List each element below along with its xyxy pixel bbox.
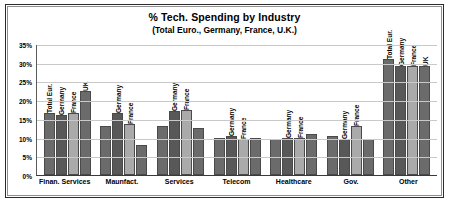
bar: Total Eur. <box>44 113 55 175</box>
bar-series-label: France <box>182 70 190 110</box>
y-axis-tick: 15% <box>19 116 32 123</box>
y-axis-tick: 0% <box>23 173 32 180</box>
x-axis-label: Other <box>380 178 437 185</box>
bar <box>193 128 204 175</box>
x-axis-label: Telecom <box>208 178 265 185</box>
bar: France <box>351 126 362 175</box>
y-axis-tick: 20% <box>19 98 32 105</box>
bar: France <box>294 138 305 175</box>
x-axis-label: Gov. <box>322 178 379 185</box>
bar <box>157 126 168 175</box>
y-axis: 0%5%10%15%20%25%30%35% <box>11 45 35 176</box>
bar-series-label: France <box>296 98 304 138</box>
bar <box>327 136 338 175</box>
bar: Germany <box>56 115 67 175</box>
bar: France <box>68 113 79 175</box>
bar: Germany <box>226 136 237 175</box>
chart-frame: % Tech. Spending by Industry (Total Euro… <box>5 4 444 198</box>
gridline <box>37 139 437 140</box>
bar <box>214 138 225 175</box>
gridline <box>37 120 437 121</box>
bar-series-label: Germany <box>114 73 122 113</box>
x-axis-label: Services <box>151 178 208 185</box>
chart-screenshot: % Tech. Spending by Industry (Total Euro… <box>0 0 449 205</box>
bar <box>306 134 317 175</box>
bar <box>100 126 111 175</box>
y-axis-tick: 25% <box>19 79 32 86</box>
x-axis-label: Healthcare <box>265 178 322 185</box>
bar-series-label: France <box>126 84 134 124</box>
bar: Germany <box>282 138 293 175</box>
y-axis-tick: 10% <box>19 135 32 142</box>
gridline <box>37 157 437 158</box>
bar: UK <box>80 91 91 175</box>
bar-series-label: France <box>69 73 77 113</box>
x-axis-label: Maunfact. <box>93 178 150 185</box>
y-axis-tick: 35% <box>19 42 32 49</box>
gridline <box>37 64 437 65</box>
bar-series-label: Germany <box>57 75 65 115</box>
bar <box>250 138 261 175</box>
chart-title-block: % Tech. Spending by Industry (Total Euro… <box>6 11 443 36</box>
bar: Germany <box>112 113 123 175</box>
y-axis-tick: 5% <box>23 154 32 161</box>
bar: France <box>124 124 135 175</box>
gridline <box>37 101 437 102</box>
plot-wrapper: 0%5%10%15%20%25%30%35% Total Eur.Germany… <box>11 45 439 193</box>
bar-series-label: Total Eur. <box>45 73 53 113</box>
bar-series-label: Germany <box>170 71 178 111</box>
chart-subtitle: (Total Euro., Germany, France, U.K.) <box>6 24 443 36</box>
plot-area: Total Eur.GermanyFranceUKGermanyFranceGe… <box>36 45 437 176</box>
y-axis-tick: 30% <box>19 60 32 67</box>
bar-series-label: Germany <box>284 98 292 138</box>
gridline <box>37 45 437 46</box>
page-title: % Tech. Spending by Industry <box>6 11 443 24</box>
gridline <box>37 82 437 83</box>
x-axis-labels: Finan. ServicesMaunfact.ServicesTelecomH… <box>36 178 437 185</box>
bar-series-label: UK <box>81 51 89 91</box>
bar <box>136 145 147 175</box>
bar: Germany <box>169 111 180 175</box>
x-axis-label: Finan. Services <box>36 178 93 185</box>
